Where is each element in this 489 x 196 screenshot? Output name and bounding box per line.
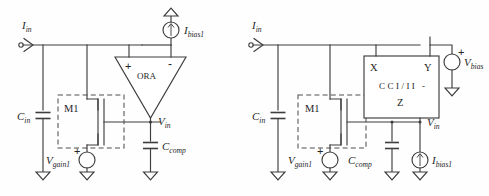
right-vbias-label: Vbias (464, 56, 483, 71)
left-ora-plus-sign: + (125, 60, 131, 72)
left-supply-rail-icon (164, 8, 178, 16)
right-ccomp-ground-icon (385, 172, 399, 180)
right-conveyor-port-x-label: X (370, 62, 378, 73)
left-cin-label: Cin (17, 110, 30, 125)
right-ccomp-label: Ccomp (348, 154, 372, 169)
left-cin-ground-icon (36, 172, 50, 180)
left-vgain-source-symbol (79, 152, 95, 168)
left-vgain-label: Vgain1 (46, 154, 70, 169)
left-ibias-label: Ibias1 (183, 24, 204, 39)
left-circuit: M1 + Vgain1 + - ORA (17, 8, 204, 180)
right-vin-node-dot (419, 121, 422, 124)
left-ora-minus-sign: - (168, 57, 172, 71)
circuit-figure: M1 + Vgain1 + - ORA (0, 0, 489, 196)
left-vin-node-dot (149, 121, 152, 124)
left-vgain-ground-icon (80, 172, 94, 180)
right-conveyor-y-to-vbias (430, 37, 452, 54)
left-ccomp-ground-icon (144, 172, 158, 180)
right-vgain-label: Vgain1 (288, 154, 312, 169)
right-iin-label: Iin (251, 19, 262, 34)
right-m1-source-terminal (330, 134, 341, 145)
right-ccomp-node-dot (391, 121, 394, 124)
left-ora-label: ORA (137, 71, 157, 81)
right-ibias-ground-icon (413, 172, 427, 180)
right-ibias-label: Ibias1 (431, 154, 452, 169)
left-m1-drain-terminal (87, 99, 98, 110)
right-cin-label: Cin (252, 110, 265, 125)
right-vgain-source-symbol (322, 152, 338, 168)
right-vgain-ground-icon (323, 172, 337, 180)
left-vin-label: Vin (158, 115, 171, 130)
right-cin-ground-icon (271, 172, 285, 180)
right-vbias-ground-icon (445, 88, 459, 96)
right-conveyor-port-z-label: Z (397, 97, 403, 108)
right-conveyor-port-y-label: Y (424, 62, 432, 73)
left-m1-source-terminal (87, 134, 98, 145)
right-vgain-plus-sign: + (317, 145, 323, 157)
right-m1-drain-terminal (330, 99, 341, 110)
left-vgain-plus-sign: + (74, 145, 80, 157)
left-m1-label: M1 (64, 103, 79, 114)
right-circuit: M1 + Vgain1 X Y CCI/II - Z + Vbias (249, 19, 484, 180)
schematic-canvas: M1 + Vgain1 + - ORA (0, 0, 489, 196)
left-ccomp-label: Ccomp (162, 140, 186, 155)
right-m1-label: M1 (305, 103, 320, 114)
left-iin-label: Iin (21, 19, 32, 34)
